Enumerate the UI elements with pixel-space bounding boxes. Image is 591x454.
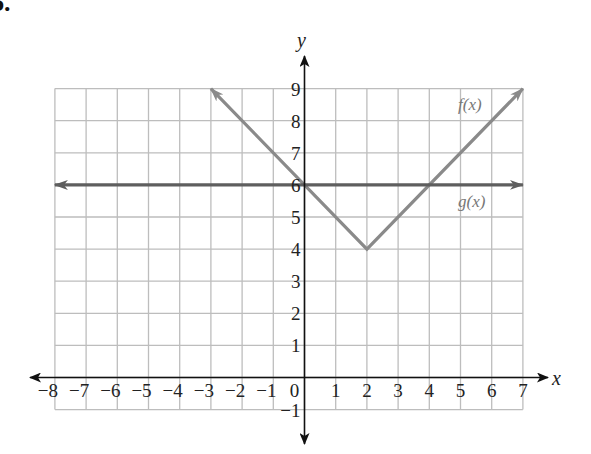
x-tick-label: 0	[290, 380, 300, 401]
g-label: g(x)	[458, 192, 486, 211]
y-tick-label: 5	[291, 207, 301, 228]
y-tick-label: 4	[291, 239, 301, 260]
x-tick-label: 7	[518, 380, 528, 401]
y-tick-label: 6	[291, 175, 301, 196]
y-tick-label: 8	[291, 111, 301, 132]
x-tick-label: 5	[456, 380, 466, 401]
x-tick-label: −1	[256, 380, 276, 401]
x-tick-label: 4	[425, 380, 435, 401]
tick-labels: −8−7−6−5−4−3−2−101234567−1123456789xy	[38, 29, 561, 421]
y-tick-label: 7	[291, 143, 301, 164]
y-tick-label: 1	[291, 335, 301, 356]
x-tick-label: −5	[131, 380, 151, 401]
x-tick-label: −4	[163, 380, 184, 401]
x-tick-label: −3	[194, 380, 214, 401]
x-tick-label: −6	[100, 380, 120, 401]
y-tick-label: 3	[291, 271, 301, 292]
y-tick-label: 9	[291, 79, 301, 100]
x-tick-label: −7	[69, 380, 89, 401]
grid-lines	[55, 89, 523, 410]
y-axis-label: y	[295, 29, 306, 52]
x-tick-label: 1	[331, 380, 341, 401]
x-tick-label: 3	[393, 380, 403, 401]
x-tick-label: −8	[38, 380, 58, 401]
f-label: f(x)	[458, 95, 482, 114]
coordinate-plane: f(x)g(x) −8−7−6−5−4−3−2−101234567−112345…	[0, 0, 591, 454]
function-graphs: f(x)g(x)	[55, 89, 523, 250]
x-tick-label: 2	[362, 380, 372, 401]
y-tick-label: 2	[291, 303, 301, 324]
x-tick-label: −2	[225, 380, 245, 401]
x-tick-label: 6	[487, 380, 497, 401]
y-tick-label: −1	[280, 400, 300, 421]
x-axis-label: x	[551, 367, 561, 389]
